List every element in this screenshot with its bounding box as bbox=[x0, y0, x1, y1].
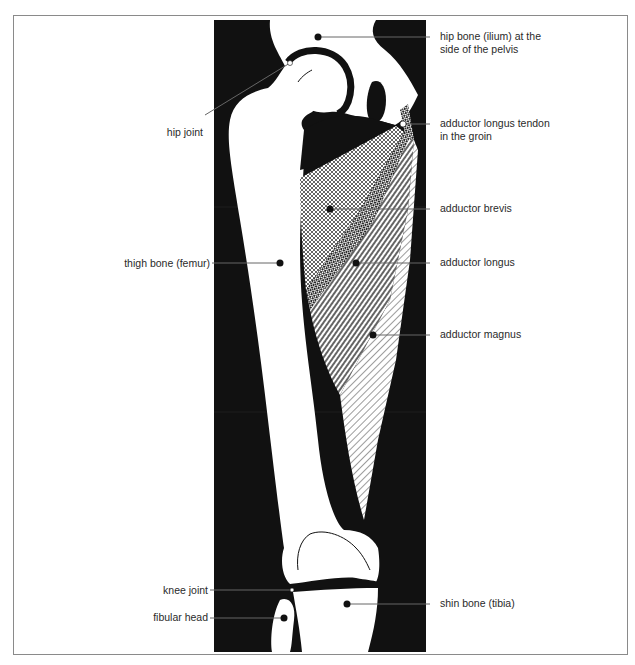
label-shin-bone: shin bone (tibia) bbox=[440, 597, 515, 610]
label-fibular-head: fibular head bbox=[120, 611, 208, 624]
label-hip-bone: hip bone (ilium) at the side of the pelv… bbox=[440, 30, 541, 56]
label-adductor-longus-tendon: adductor longus tendon in the groin bbox=[440, 117, 550, 143]
tibia-shape bbox=[293, 588, 378, 652]
thigh-anatomy-illustration bbox=[0, 0, 635, 665]
femur-marker bbox=[277, 260, 284, 267]
hip-joint-marker bbox=[288, 61, 293, 66]
tendon-marker bbox=[400, 121, 406, 127]
adductor-longus-marker bbox=[353, 260, 360, 267]
label-adductor-brevis: adductor brevis bbox=[440, 202, 512, 215]
label-adductor-longus: adductor longus bbox=[440, 256, 515, 269]
label-adductor-magnus: adductor magnus bbox=[440, 328, 521, 341]
adductor-magnus-marker bbox=[370, 332, 377, 339]
label-thigh-bone: thigh bone (femur) bbox=[100, 257, 210, 270]
label-tendon-line1: adductor longus tendon bbox=[440, 117, 550, 130]
fibula-marker bbox=[281, 615, 288, 622]
hip-bone-marker bbox=[315, 34, 322, 41]
adductor-brevis-marker bbox=[327, 206, 334, 213]
label-hip-bone-line1: hip bone (ilium) at the bbox=[440, 30, 541, 43]
label-knee-joint: knee joint bbox=[130, 584, 208, 597]
label-hip-bone-line2: side of the pelvis bbox=[440, 43, 541, 56]
tibia-marker bbox=[344, 601, 351, 608]
knee-joint-marker bbox=[290, 588, 294, 592]
label-hip-joint: hip joint bbox=[130, 126, 203, 139]
label-tendon-line2: in the groin bbox=[440, 130, 550, 143]
